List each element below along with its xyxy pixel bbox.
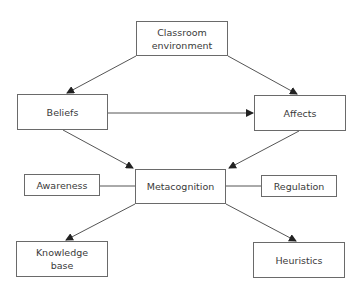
node-heuristics: Heuristics	[253, 242, 345, 278]
edge-affects-metacognition	[229, 131, 299, 168]
node-label: Knowledge base	[36, 246, 88, 272]
node-knowledge-base: Knowledge base	[16, 241, 108, 277]
node-label: Affects	[284, 107, 317, 120]
node-regulation: Regulation	[261, 175, 337, 197]
node-affects: Affects	[254, 95, 346, 131]
edge-beliefs-metacognition	[63, 130, 133, 168]
node-awareness: Awareness	[24, 174, 100, 196]
node-label: Beliefs	[47, 106, 79, 119]
node-label: Heuristics	[275, 254, 322, 267]
node-label: Classroom environment	[152, 26, 213, 52]
edge-classroom-beliefs	[67, 56, 136, 93]
node-label: Metacognition	[147, 180, 215, 193]
node-label: Regulation	[274, 180, 325, 193]
node-classroom-environment: Classroom environment	[136, 21, 228, 56]
edge-metacognition-heuristics	[226, 204, 296, 241]
edge-metacognition-knowledge	[66, 204, 135, 240]
node-metacognition: Metacognition	[135, 169, 226, 204]
node-label: Awareness	[36, 179, 87, 192]
edge-classroom-affects	[228, 56, 297, 94]
node-beliefs: Beliefs	[17, 94, 108, 130]
